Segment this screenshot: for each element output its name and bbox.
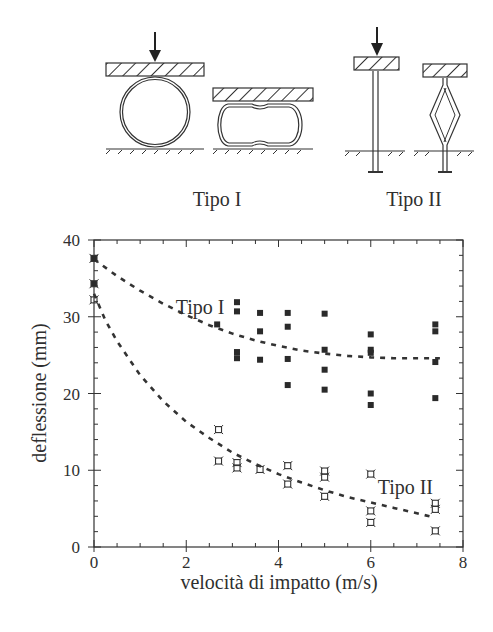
diagram-label-tipo-2: Tipo II bbox=[386, 188, 441, 211]
data-point-tipo-2 bbox=[320, 473, 329, 482]
data-point-tipo-1 bbox=[368, 391, 374, 397]
data-point-tipo-1 bbox=[368, 402, 374, 408]
data-point-tipo-1 bbox=[432, 359, 438, 365]
diagram-label-tipo-1: Tipo I bbox=[193, 188, 242, 211]
data-point-tipo-1 bbox=[257, 310, 263, 316]
y-tick-label: 30 bbox=[63, 308, 80, 327]
data-point-tipo-2 bbox=[256, 465, 265, 474]
x-tick-label: 2 bbox=[182, 553, 191, 572]
ground-right-1 bbox=[345, 151, 405, 156]
y-tick-label: 0 bbox=[72, 538, 81, 557]
y-tick-label: 20 bbox=[63, 385, 80, 404]
plot-frame bbox=[94, 240, 463, 547]
diagram-tipo-1: Tipo I bbox=[106, 32, 313, 211]
data-point-tipo-2 bbox=[232, 463, 241, 472]
data-point-tipo-1 bbox=[214, 321, 220, 327]
diagram-tipo-2: Tipo II bbox=[345, 27, 474, 211]
data-point-tipo-1 bbox=[285, 382, 291, 388]
data-point-tipo-1 bbox=[322, 347, 328, 353]
data-point-tipo-1 bbox=[285, 310, 291, 316]
arrow-down-icon bbox=[149, 32, 161, 62]
data-point-tipo-1 bbox=[322, 311, 328, 317]
x-tick-label: 8 bbox=[459, 553, 468, 572]
ring-undeformed bbox=[120, 77, 190, 147]
data-point-tipo-2 bbox=[431, 526, 440, 535]
data-point-tipo-2 bbox=[214, 425, 223, 434]
annotation-tipo-i: Tipo I bbox=[176, 296, 225, 319]
data-point-tipo-1 bbox=[234, 308, 240, 314]
data-point-tipo-1 bbox=[257, 328, 263, 334]
ground-mid bbox=[213, 149, 313, 154]
data-point-tipo-1 bbox=[257, 357, 263, 363]
annotation-tipo-ii: Tipo II bbox=[378, 476, 433, 499]
data-point-tipo-1 bbox=[368, 350, 374, 356]
data-point-tipo-2 bbox=[431, 505, 440, 514]
data-point-tipo-2 bbox=[283, 480, 292, 489]
data-point-tipo-1 bbox=[432, 328, 438, 334]
x-tick-label: 0 bbox=[90, 553, 99, 572]
data-point-tipo-1 bbox=[322, 367, 328, 373]
ground-left bbox=[106, 149, 204, 154]
data-point-tipo-1 bbox=[368, 331, 374, 337]
axis-tick-labels: 02468010203040 bbox=[63, 231, 467, 572]
data-point-tipo-2 bbox=[366, 518, 375, 527]
y-axis-label: deflessione (mm) bbox=[28, 323, 51, 462]
hatched-block bbox=[354, 57, 399, 70]
data-point-tipo-2 bbox=[214, 457, 223, 466]
data-point-tipo-1 bbox=[234, 299, 240, 305]
data-point-tipo-1 bbox=[322, 387, 328, 393]
x-tick-label: 4 bbox=[274, 553, 283, 572]
scatter-chart: 02468010203040 Tipo ITipo II velocità di… bbox=[28, 231, 467, 594]
figure-svg: Tipo I bbox=[0, 0, 493, 632]
data-point-tipo-1 bbox=[234, 355, 240, 361]
axis-ticks bbox=[88, 240, 463, 552]
column-straight bbox=[368, 71, 383, 172]
data-point-tipo-1 bbox=[91, 255, 97, 261]
data-point-tipo-2 bbox=[366, 506, 375, 515]
figure: Tipo I bbox=[0, 0, 493, 632]
data-point-tipo-1 bbox=[285, 356, 291, 362]
data-point-tipo-2 bbox=[366, 470, 375, 479]
hatched-plate bbox=[106, 63, 204, 76]
data-point-tipo-1 bbox=[285, 324, 291, 330]
data-point-tipo-1 bbox=[234, 349, 240, 355]
y-tick-label: 10 bbox=[63, 461, 80, 480]
fit-curve-tipo-i bbox=[94, 259, 440, 358]
hatched-plate-2 bbox=[213, 88, 313, 101]
arrow-down-icon bbox=[371, 27, 383, 56]
ground-right-2 bbox=[414, 151, 474, 156]
ring-deformed bbox=[218, 104, 302, 146]
x-tick-label: 6 bbox=[367, 553, 376, 572]
data-point-tipo-2 bbox=[320, 492, 329, 501]
data-point-tipo-1 bbox=[432, 395, 438, 401]
data-point-tipo-1 bbox=[432, 321, 438, 327]
data-point-tipo-2 bbox=[283, 461, 292, 470]
y-tick-label: 40 bbox=[63, 231, 80, 250]
column-buckled bbox=[430, 78, 460, 172]
hatched-block-2 bbox=[423, 64, 467, 77]
x-axis-label: velocità di impatto (m/s) bbox=[180, 571, 377, 594]
data-point-tipo-1 bbox=[91, 281, 97, 287]
